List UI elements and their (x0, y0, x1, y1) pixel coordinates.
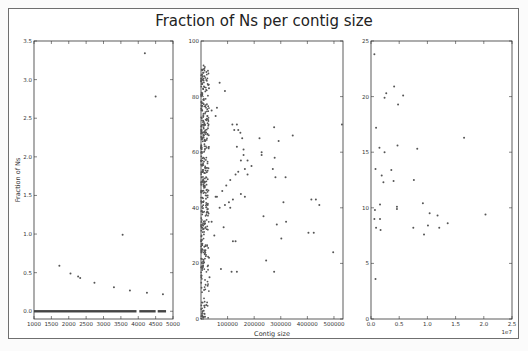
data-point (236, 123, 238, 125)
data-point (412, 227, 414, 229)
data-point (229, 179, 231, 181)
y-tick-label: 25 (362, 38, 369, 44)
data-point (373, 53, 375, 55)
y-tick-label: 15 (362, 149, 369, 155)
data-point (162, 293, 164, 295)
axes-box (201, 41, 343, 319)
y-tick-label: 1.5 (23, 192, 32, 198)
data-point (422, 202, 424, 204)
data-point (278, 140, 280, 142)
data-point (223, 226, 225, 228)
data-point (310, 198, 312, 200)
data-point (228, 201, 230, 203)
panel-right-contig-size-1e7: 0.00.51.01.52.02.505101520251e7 (362, 38, 517, 335)
data-point (122, 234, 124, 236)
baseline-points-band (158, 310, 166, 312)
data-point (77, 276, 79, 278)
data-point (235, 173, 237, 175)
data-point (396, 206, 398, 208)
data-point (273, 271, 275, 273)
data-point (229, 207, 231, 209)
data-point (224, 90, 226, 92)
data-point (447, 222, 449, 224)
data-point (396, 208, 398, 210)
x-tick-label: 3500 (114, 321, 128, 327)
data-point (243, 148, 245, 150)
x-tick-label: 1.0 (423, 321, 432, 327)
x-tick-label: 4000 (131, 321, 145, 327)
y-tick-label: 2.0 (23, 154, 32, 160)
y-tick-label: 2.5 (23, 115, 32, 121)
x-tick-label: 500000 (323, 321, 344, 327)
data-point (393, 86, 395, 88)
data-point (203, 310, 205, 312)
data-point (382, 181, 384, 183)
x-tick-label: 300000 (270, 321, 291, 327)
data-point (373, 218, 375, 220)
data-point (224, 204, 226, 206)
data-point (423, 233, 425, 235)
x-axis-label: Contig size (254, 330, 290, 338)
data-point (379, 218, 381, 220)
data-point (274, 176, 276, 178)
y-tick-label: 0 (366, 316, 370, 322)
data-point (375, 227, 377, 229)
data-point (282, 201, 284, 203)
data-point (213, 235, 215, 237)
data-point (280, 237, 282, 239)
data-point (209, 276, 211, 278)
data-point (413, 179, 415, 181)
data-point (374, 209, 376, 211)
data-point (243, 154, 245, 156)
data-point (236, 146, 238, 148)
data-point (438, 227, 440, 229)
data-point (397, 103, 399, 105)
data-point (265, 260, 267, 262)
x-tick-label: 1500 (44, 321, 58, 327)
data-point (273, 126, 275, 128)
data-point (232, 240, 234, 242)
chart-title: Fraction of Ns per contig size (155, 12, 373, 30)
data-point (144, 52, 146, 54)
data-point (385, 92, 387, 94)
data-point (205, 304, 207, 306)
y-tick-label: 0.0 (23, 308, 32, 314)
data-point (285, 176, 287, 178)
data-point (241, 137, 243, 139)
data-point (219, 207, 221, 209)
data-point (231, 271, 233, 273)
data-point (204, 316, 206, 318)
data-point (276, 223, 278, 225)
data-point (341, 123, 343, 125)
x-tick-label: 2.0 (479, 321, 488, 327)
baseline-points-band (34, 310, 137, 312)
y-tick-label: 5 (366, 260, 370, 266)
data-point (58, 265, 60, 267)
data-point (390, 169, 392, 171)
data-point (427, 225, 429, 227)
data-point (484, 213, 486, 215)
axes-box (371, 41, 512, 319)
data-point (220, 268, 222, 270)
x-tick-label: 2.5 (508, 321, 517, 327)
data-point (205, 79, 207, 81)
y-tick-label: 10 (362, 205, 369, 211)
data-point (231, 123, 233, 125)
data-point (375, 168, 377, 170)
y-tick-label: 20 (192, 260, 199, 266)
data-point (378, 147, 380, 149)
data-point (155, 96, 157, 98)
data-point (225, 185, 227, 187)
x-tick-label: 3000 (97, 321, 111, 327)
data-point (285, 221, 287, 223)
data-point (129, 289, 131, 291)
y-tick-label: 3.5 (23, 38, 32, 44)
data-point (239, 132, 241, 134)
x-tick-label: 1.5 (451, 321, 460, 327)
data-point (211, 221, 213, 223)
y-tick-label: 100 (189, 38, 200, 44)
x-tick-label: 1000 (27, 321, 41, 327)
y-tick-label: 3.0 (23, 77, 32, 83)
data-point (292, 135, 294, 137)
data-point (237, 129, 239, 131)
